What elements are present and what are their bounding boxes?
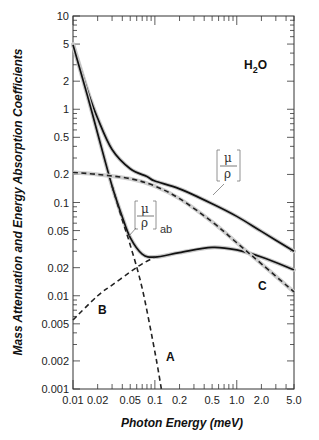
x-axis-title: Photon Energy (meV) [121, 416, 243, 430]
mu-rho-label: μ ρ [213, 150, 240, 195]
y-tick-label: 0.05 [48, 225, 69, 237]
x-tick-label: 0.1 [147, 394, 162, 406]
y-tick-label: 10 [57, 10, 69, 22]
y-tick-label: 0.01 [48, 290, 69, 302]
x-tick-label: 0.01 [62, 394, 83, 406]
x-tick-label: 0.05 [120, 394, 141, 406]
svg-text:ρ: ρ [141, 216, 148, 230]
curve-a [112, 186, 161, 389]
y-tick-label: 0.1 [54, 197, 69, 209]
curves [73, 44, 294, 389]
svg-text:μ: μ [141, 202, 149, 216]
y-tick-label: 0.005 [41, 318, 69, 330]
y-tick-label: 5 [63, 38, 69, 50]
label-c: C [258, 279, 267, 293]
y-tick-label: 0.5 [54, 131, 69, 143]
curve-mu-rho-mass-attenuation [73, 44, 294, 251]
y-axis-title: Mass Attenuation and Energy Absorption C… [11, 48, 25, 355]
y-tick-label: 2 [63, 75, 69, 87]
x-tick-label: 1.0 [229, 394, 244, 406]
x-tick-label: 0.02 [87, 394, 108, 406]
label-b: B [98, 303, 107, 317]
attenuation-chart: 0.0010.0020.0050.010.020.050.10.20.51251… [0, 0, 319, 440]
chart-title-h2o: H2O [244, 58, 267, 75]
svg-text:ab: ab [160, 223, 172, 235]
label-a: A [166, 350, 175, 364]
x-tick-label: 0.2 [172, 394, 187, 406]
x-tick-label: 5.0 [286, 394, 301, 406]
x-tick-label: 2.0 [254, 394, 269, 406]
mu-rho-ab-label: μ ρ ab [129, 201, 172, 236]
x-tick-label: 0.5 [204, 394, 219, 406]
y-tick-label: 0.02 [48, 262, 69, 274]
y-tick-label: 1 [63, 103, 69, 115]
svg-text:μ: μ [224, 151, 232, 165]
y-tick-label: 0.2 [54, 168, 69, 180]
svg-text:ρ: ρ [224, 167, 231, 181]
y-tick-label: 0.002 [41, 355, 69, 367]
